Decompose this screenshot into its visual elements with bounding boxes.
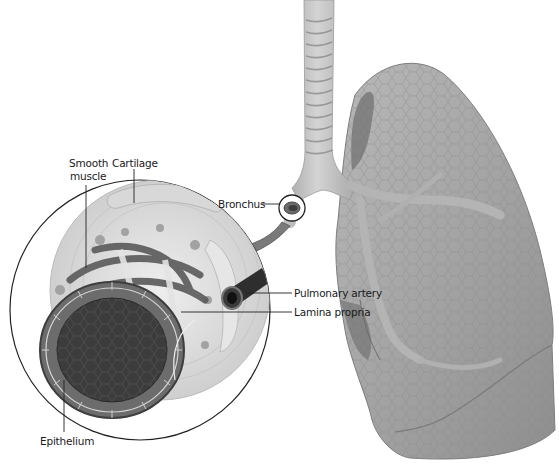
label-lamina-propria: Lamina propria	[294, 306, 371, 318]
label-pulmonary-artery: Pulmonary artery	[294, 287, 382, 299]
bronchus-highlight-circle	[279, 195, 305, 221]
label-smooth-muscle-line2: muscle	[70, 170, 106, 182]
label-cartilage: Cartilage	[112, 157, 158, 169]
magnified-bronchus-view	[10, 180, 270, 440]
lung-diagram-illustration	[0, 0, 559, 470]
label-epithelium: Epithelium	[40, 435, 94, 447]
label-smooth-muscle-line1: Smooth	[69, 157, 108, 169]
label-bronchus: Bronchus	[218, 198, 265, 210]
